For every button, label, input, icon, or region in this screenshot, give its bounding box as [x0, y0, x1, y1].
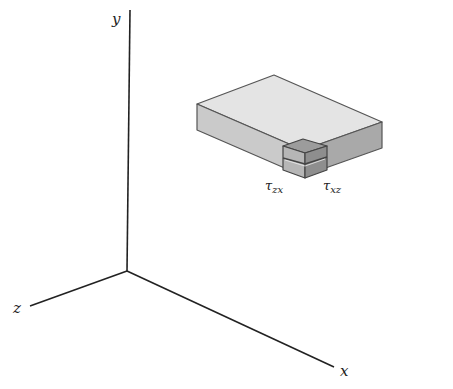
- z-axis: [30, 271, 127, 306]
- coordinate-axes: [30, 10, 334, 367]
- tau-subscript: xz: [330, 184, 341, 195]
- diagram-canvas: [0, 0, 453, 389]
- tau-subscript: zx: [272, 184, 283, 195]
- y-axis: [127, 10, 130, 271]
- y-axis-label: y: [112, 12, 120, 27]
- tau-zx-label: τzx: [265, 179, 283, 195]
- tau-xz-label: τxz: [323, 179, 341, 195]
- stress-element-cube: [283, 139, 327, 178]
- z-axis-label: z: [13, 301, 21, 316]
- x-axis: [127, 271, 334, 367]
- x-axis-label: x: [340, 364, 348, 379]
